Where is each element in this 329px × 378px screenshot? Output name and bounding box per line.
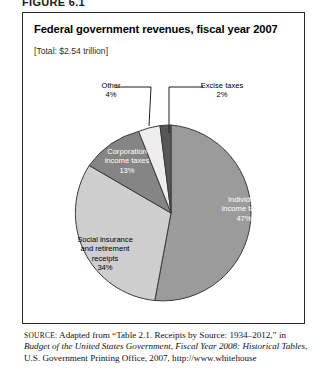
pie-label-individual-value: 47%: [201, 214, 287, 223]
pie-label-social-value: 34%: [53, 263, 157, 272]
pie-label-other-name: Other: [85, 81, 137, 90]
pie-label-individual-line1: Individual: [201, 195, 287, 204]
pie-label-other: Other 4%: [85, 81, 137, 100]
source-line1: Adapted from “Table 2.1. Receipts by Sou…: [57, 330, 286, 340]
pie-label-individual-line2: income taxes: [201, 204, 287, 213]
pie-label-social-line3: receipts: [53, 254, 157, 263]
pie-label-excise-name: Excise taxes: [183, 81, 261, 90]
pie-label-corporation-value: 13%: [83, 166, 171, 175]
pie-label-social-insurance-receipts: Social insurance and retirement receipts…: [53, 235, 157, 273]
pie-label-other-value: 4%: [85, 90, 137, 99]
pie-label-excise-taxes: Excise taxes 2%: [183, 81, 261, 100]
source-line2: Budget of the United States Government, …: [24, 341, 279, 351]
source-line3-title: Tables: [282, 341, 305, 351]
pie-label-social-line2: and retirement: [53, 244, 157, 253]
figure-frame: Federal government revenues, fiscal year…: [22, 12, 305, 324]
pie-label-corporation-line2: income taxes: [83, 156, 171, 165]
source-note: SOURCE: Adapted from “Table 2.1. Receipt…: [24, 330, 312, 364]
pie-label-excise-value: 2%: [183, 90, 261, 99]
pie-label-social-line1: Social insurance: [53, 235, 157, 244]
pie-label-individual-income-taxes: Individual income taxes 47%: [201, 195, 287, 223]
pie-label-corporation-income-taxes: Corporation income taxes 13%: [83, 147, 171, 175]
figure-number-label: FIGURE 6.1: [22, 0, 85, 6]
source-label: SOURCE:: [24, 331, 57, 340]
pie-label-corporation-line1: Corporation: [83, 147, 171, 156]
pie-chart: Other 4% Excise taxes 2% Individual inco…: [23, 13, 306, 325]
